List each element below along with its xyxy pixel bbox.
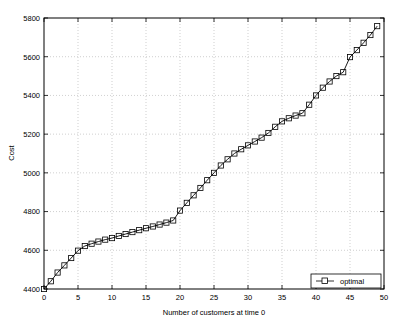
x-tick-label: 40 [312, 293, 320, 302]
y-tick-label: 5200 [23, 130, 40, 139]
legend[interactable]: optimal [311, 274, 381, 288]
y-tick-labels: 44004600480050005200540056005800 [23, 14, 40, 294]
x-tick-label: 30 [244, 293, 252, 302]
y-tick-label: 5600 [23, 53, 40, 62]
x-tick-label: 5 [76, 293, 80, 302]
y-tick-label: 5400 [23, 91, 40, 100]
legend-label-optimal: optimal [340, 277, 365, 286]
figure-container: 05101520253035404550 4400460048005000520… [0, 0, 405, 328]
x-tick-label: 0 [42, 293, 46, 302]
x-axis-label: Number of customers at time 0 [163, 308, 266, 317]
x-tick-label: 15 [142, 293, 150, 302]
y-tick-label: 4800 [23, 207, 40, 216]
x-tick-label: 50 [380, 293, 388, 302]
x-tick-label: 10 [108, 293, 116, 302]
legend-marker-square [322, 278, 327, 283]
y-axis-label: Cost [7, 144, 16, 160]
x-tick-label: 20 [176, 293, 184, 302]
line-chart: 05101520253035404550 4400460048005000520… [0, 0, 405, 328]
x-tick-labels: 05101520253035404550 [42, 293, 388, 302]
x-tick-label: 25 [210, 293, 218, 302]
y-tick-label: 5000 [23, 169, 40, 178]
y-tick-label: 4600 [23, 246, 40, 255]
x-tick-label: 35 [278, 293, 286, 302]
x-tick-label: 45 [346, 293, 354, 302]
y-tick-label: 5800 [23, 14, 40, 23]
y-tick-label: 4400 [23, 285, 40, 294]
